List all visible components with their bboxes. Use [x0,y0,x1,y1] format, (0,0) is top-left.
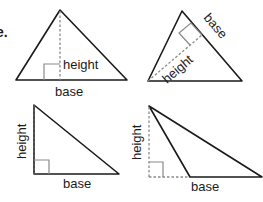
right-angle-marker [34,160,49,174]
triangle-rotated-outline [148,11,242,81]
right-angle-marker [179,23,202,45]
right-angle-marker [44,64,60,80]
base-label: base [201,10,231,41]
height-label: height [63,57,99,72]
triangle-rotated: base height [148,10,242,86]
triangle-obtuse-outline [149,106,262,177]
triangle-obtuse: height base [129,106,262,194]
triangle-height-base-diagram: e. height base base height height base h… [0,0,263,202]
base-label: base [55,84,83,99]
right-angle-marker [149,162,163,177]
partial-text: e. [0,24,8,40]
height-label: height [129,124,144,160]
height-label: height [14,123,29,159]
triangle-acute: height base [16,10,127,99]
base-label: base [191,179,219,194]
base-label: base [63,176,91,191]
triangle-right: height base [14,105,119,191]
triangle-right-outline [34,105,119,174]
